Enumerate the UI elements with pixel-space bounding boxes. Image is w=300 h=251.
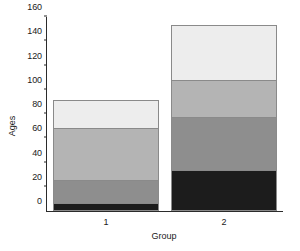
x-axis-label: Group (46, 231, 282, 241)
bar-group-2 (171, 25, 277, 211)
bar-segment (171, 25, 277, 81)
bar-segment (171, 170, 277, 211)
y-axis-tick-label: 20 (32, 172, 47, 182)
plot-area: 02040608010012014016012 (46, 17, 283, 212)
y-axis-tick-label: 160 (27, 2, 47, 12)
y-axis-tick-mark (44, 88, 47, 89)
y-axis-tick-mark (44, 185, 47, 186)
x-axis-tick-label: 1 (103, 217, 108, 227)
y-axis-tick-label: 60 (32, 123, 47, 133)
bar-segment (171, 117, 277, 170)
y-axis-tick-label: 120 (27, 51, 47, 61)
bar-group-1 (53, 100, 159, 211)
y-axis-tick-mark (44, 137, 47, 138)
bar-segment (53, 180, 159, 203)
bar-segment (171, 80, 277, 119)
bar-segment (53, 203, 159, 211)
bar-segment (53, 128, 159, 181)
y-axis-tick-label: 100 (27, 75, 47, 85)
y-axis-tick-mark (44, 161, 47, 162)
y-axis-tick-label: 0 (37, 196, 47, 206)
y-axis-tick-mark (44, 113, 47, 114)
y-axis-tick-label: 140 (27, 26, 47, 36)
bar-segment (53, 100, 159, 129)
y-axis-tick-label: 80 (32, 99, 47, 109)
stacked-bar-chart: Ages 02040608010012014016012 Group (0, 0, 300, 251)
x-axis-tick-label: 2 (221, 217, 226, 227)
y-axis-tick-mark (44, 64, 47, 65)
y-axis-tick-mark (44, 40, 47, 41)
y-axis-label: Ages (7, 115, 17, 136)
y-axis-tick-mark (44, 16, 47, 17)
y-axis-tick-label: 40 (32, 148, 47, 158)
